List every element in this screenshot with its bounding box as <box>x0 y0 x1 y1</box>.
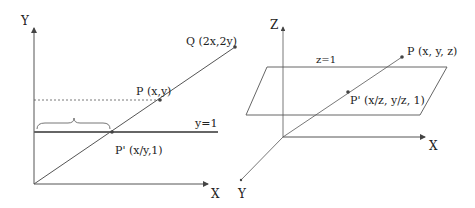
point-p-dot <box>158 98 162 102</box>
ray-origin-to-q <box>34 47 235 184</box>
y-axis-3d <box>241 137 283 180</box>
line-label: y=1 <box>194 117 217 130</box>
brace <box>37 118 110 129</box>
y-axis-label-3d: Y <box>237 187 247 201</box>
z-axis-label: Z <box>270 18 278 32</box>
point-p-prime-label-3d: P' (x/z, y/z, 1) <box>350 94 425 107</box>
point-p-label: P (x,y) <box>136 85 171 98</box>
projection-diagram: Y X Q (2x,2y) P (x,y) P' (x/y,1) y=1 Z X… <box>0 0 475 208</box>
y-axis-end-dot <box>240 179 242 181</box>
point-p-prime-label: P' (x/y,1) <box>115 144 163 157</box>
point-p-label-3d: P (x, y, z) <box>407 45 457 58</box>
plane-label: z=1 <box>316 54 336 65</box>
x-axis-label-3d: X <box>429 139 438 153</box>
plane-z-equals-1 <box>246 67 447 115</box>
x-axis-label: X <box>211 187 220 201</box>
point-p-prime-dot <box>110 130 114 134</box>
left-diagram: Y X Q (2x,2y) P (x,y) P' (x/y,1) y=1 <box>20 14 237 201</box>
y-axis-label: Y <box>20 14 30 28</box>
point-p-dot-3d <box>400 55 404 59</box>
right-diagram: Z X Y z=1 P (x, y, z) P' (x/z, y/z, 1) <box>237 18 457 201</box>
point-q-label: Q (2x,2y) <box>186 35 237 48</box>
